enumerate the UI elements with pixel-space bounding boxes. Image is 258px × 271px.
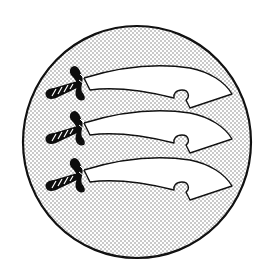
three-seaxes-emblem — [0, 0, 258, 271]
